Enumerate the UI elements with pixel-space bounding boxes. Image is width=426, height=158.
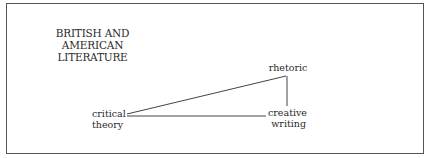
node-rhetoric: rhetoric <box>268 62 308 73</box>
node-creative-writing: creative writing <box>268 107 306 129</box>
node-creative-writing-line1: creative <box>268 107 306 118</box>
node-creative-writing-line2: writing <box>268 118 306 129</box>
node-critical-theory: critical theory <box>92 108 128 130</box>
diagram-edges <box>0 0 426 158</box>
node-critical-theory-line2: theory <box>92 119 128 130</box>
edge-critical-theory-rhetoric <box>127 76 286 114</box>
node-critical-theory-line1: critical <box>92 108 128 119</box>
node-rhetoric-label: rhetoric <box>269 62 308 73</box>
